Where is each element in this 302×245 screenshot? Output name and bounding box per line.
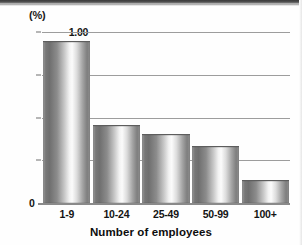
x-axis-category-label: 1-9 [42,208,92,220]
x-axis-category-label: 50-99 [191,208,241,220]
y-axis-tick-mark [36,74,41,75]
scan-artifact-right-edge [299,0,302,245]
x-axis-category-label: 10-24 [92,208,142,220]
x-axis-baseline [38,203,290,205]
bar-chart-figure: (%) 0.250.500.751.00 0 1-910-2425-4950-9… [0,0,302,245]
y-axis-tick-mark [36,160,41,161]
bar [142,134,189,203]
x-axis-category-labels: 1-910-2425-4950-99100+ [42,208,290,224]
x-axis-category-label: 25-49 [141,208,191,220]
y-axis-unit-label: (%) [29,9,46,21]
scan-artifact-top-band [0,0,302,4]
bar [43,41,90,203]
bar [93,125,140,203]
y-axis-tick-label-zero: 0 [29,197,35,209]
x-axis-title: Number of employees [0,226,302,238]
y-axis-tick-mark [36,117,41,118]
y-axis-tick-mark [36,32,41,33]
x-axis-category-label: 100+ [240,208,290,220]
bar [192,146,239,203]
bar [242,180,289,203]
bars-group [42,32,290,203]
plot-area [42,32,290,203]
